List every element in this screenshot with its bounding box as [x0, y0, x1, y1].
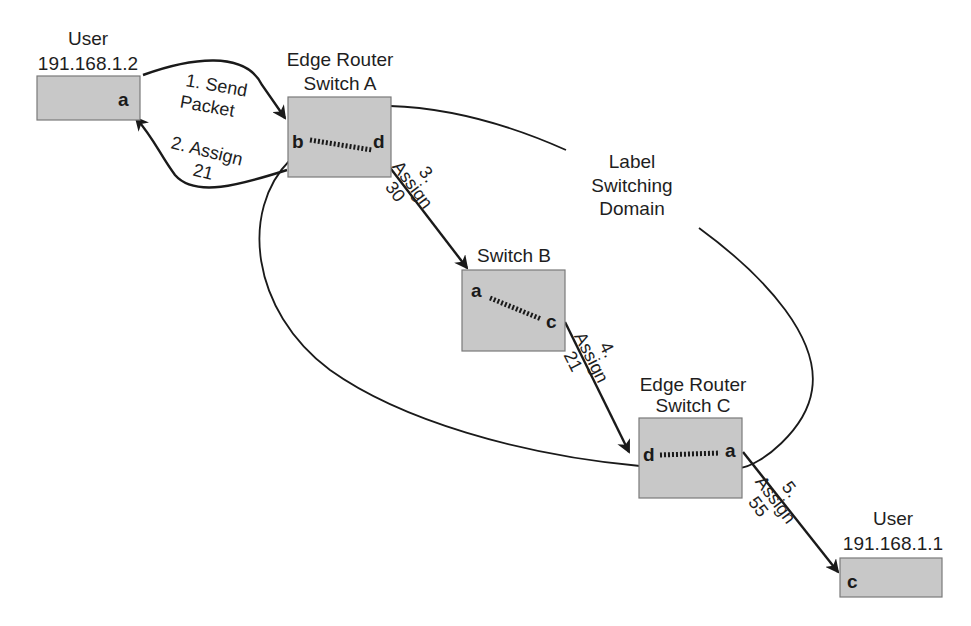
switch-b-title: Switch B — [477, 245, 551, 266]
user-destination-port-c: c — [847, 571, 858, 592]
switch-c-port-d: d — [643, 444, 655, 465]
switch-a-port-b: b — [292, 131, 304, 152]
svg-text:21: 21 — [191, 160, 215, 184]
node-switch-b: Switch B a c — [462, 245, 565, 351]
user-source-port-a: a — [118, 89, 129, 110]
step-2-label: 2. Assign 21 — [164, 132, 245, 189]
step-1-label: 1. Send Packet — [179, 70, 249, 122]
domain-label: Label Switching Domain — [591, 151, 672, 219]
switch-c-title-line1: Edge Router — [640, 374, 747, 395]
user-source-address: 191.168.1.2 — [38, 53, 138, 74]
switch-a-port-d: d — [373, 131, 385, 152]
switch-b-port-a: a — [471, 280, 482, 301]
node-switch-c: Edge Router Switch C d a — [639, 374, 747, 498]
user-source-title: User — [68, 28, 109, 49]
user-destination-title: User — [873, 508, 914, 529]
svg-text:Switching: Switching — [591, 175, 672, 196]
switch-a-title-line1: Edge Router — [287, 49, 394, 70]
svg-text:Domain: Domain — [599, 198, 664, 219]
node-user-source: User 191.168.1.2 a — [37, 28, 140, 120]
label-switching-diagram: User 191.168.1.2 a Edge Router Switch A … — [0, 0, 971, 626]
switch-c-title-line2: Switch C — [656, 395, 731, 416]
svg-text:Label: Label — [609, 151, 656, 172]
node-user-destination: User 191.168.1.1 c — [840, 508, 943, 597]
switch-a-title-line2: Switch A — [304, 73, 377, 94]
switch-b-port-c: c — [546, 311, 557, 332]
switch-c-port-a: a — [725, 440, 736, 461]
node-switch-a: Edge Router Switch A b d — [287, 49, 394, 177]
user-destination-address: 191.168.1.1 — [843, 533, 943, 554]
